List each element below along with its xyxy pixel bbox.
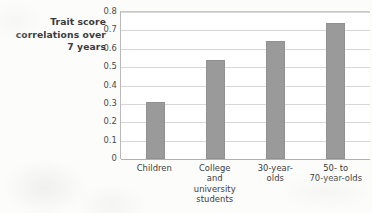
bar[interactable] — [266, 41, 285, 159]
bar-slot — [246, 12, 306, 159]
bar-slot — [306, 12, 366, 159]
plot-area — [120, 11, 370, 159]
y-tick-label: 0.5 — [103, 61, 117, 71]
bars-layer — [121, 12, 370, 159]
x-axis-label-line: 50- to — [307, 163, 366, 173]
bar[interactable] — [146, 102, 165, 159]
x-axis-label-line: College — [186, 163, 245, 173]
y-axis-tick-labels: 0.80.70.60.50.40.30.20.10 — [100, 22, 117, 159]
y-axis-title-line-3: 7 years — [6, 41, 106, 54]
x-axis-label-line: students — [186, 194, 245, 204]
x-axis-label: 30-year-olds — [245, 163, 306, 205]
x-axis-label: Collegeanduniversitystudents — [185, 163, 246, 205]
bar-slot — [185, 12, 245, 159]
x-axis-label: Children — [124, 163, 185, 205]
bar[interactable] — [206, 60, 225, 159]
x-axis-label-line: university — [186, 184, 245, 194]
bar-chart-figure: Trait score correlations over 7 years 0.… — [0, 0, 372, 213]
axis-baseline — [121, 159, 370, 160]
y-tick-label: 0.8 — [103, 6, 117, 16]
y-tick-label: 0.1 — [103, 135, 117, 145]
y-axis-title-line-2: correlations over — [6, 29, 106, 42]
y-tick-label: 0.6 — [103, 43, 117, 53]
x-axis-category-labels: ChildrenCollegeanduniversitystudents30-y… — [120, 163, 370, 205]
y-axis-title-line-1: Trait score — [6, 16, 106, 29]
bar[interactable] — [326, 23, 345, 159]
y-tick-label: 0.4 — [103, 80, 117, 90]
y-tick-label: 0.2 — [103, 116, 117, 126]
y-tick-label: 0 — [112, 153, 117, 163]
x-axis-label: 50- to70-year-olds — [306, 163, 367, 205]
y-axis-title: Trait score correlations over 7 years — [6, 16, 106, 54]
x-axis-label-line: 30-year- — [246, 163, 305, 173]
bar-slot — [125, 12, 185, 159]
x-axis-label-line: Children — [125, 163, 184, 173]
y-tick-label: 0.7 — [103, 24, 117, 34]
x-axis-label-line: 70-year-olds — [307, 173, 366, 183]
x-axis-label-line: olds — [246, 173, 305, 183]
x-axis-label-line: and — [186, 173, 245, 183]
y-tick-label: 0.3 — [103, 98, 117, 108]
